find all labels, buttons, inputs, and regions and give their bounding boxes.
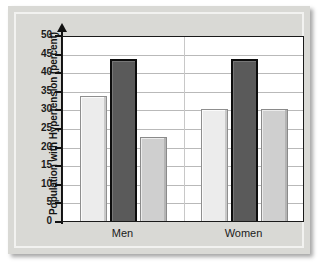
y-tick-label: 25 — [30, 123, 52, 133]
y-tick-label: 30 — [30, 104, 52, 114]
y-tick-label: 0 — [30, 216, 52, 226]
y-tick-label: 40 — [30, 67, 52, 77]
y-axis-arrow-icon — [57, 23, 67, 32]
bar-women-series-3 — [261, 109, 288, 221]
y-tick-mark — [55, 128, 62, 130]
y-tick-mark — [55, 72, 62, 74]
bar-women-series-2 — [231, 59, 258, 221]
bar-women-series-1 — [201, 109, 228, 221]
y-tick-mark — [55, 184, 62, 186]
plot-area — [62, 36, 304, 222]
gridline — [63, 55, 303, 56]
y-tick-label: 15 — [30, 160, 52, 170]
gridline — [63, 92, 303, 93]
y-tick-label: 45 — [30, 49, 52, 59]
bar-men-series-3 — [140, 137, 167, 221]
y-tick-mark — [55, 109, 62, 111]
y-tick-mark — [55, 54, 62, 56]
y-tick-mark — [55, 221, 62, 223]
gridline — [63, 73, 303, 74]
x-tick-label-women: Women — [204, 227, 284, 239]
gridline — [63, 36, 303, 37]
y-tick-label: 50 — [30, 30, 52, 40]
x-tick-label-men: Men — [83, 227, 163, 239]
bar-men-series-2 — [110, 59, 137, 221]
y-tick-label: 20 — [30, 142, 52, 152]
figure-panel: Population with Hypertension (percent) 0… — [8, 6, 310, 254]
y-tick-mark — [55, 165, 62, 167]
y-tick-mark — [55, 202, 62, 204]
y-tick-label: 5 — [30, 197, 52, 207]
plot-area-wrapper — [62, 36, 304, 222]
bar-men-series-1 — [80, 96, 107, 221]
y-tick-mark — [55, 147, 62, 149]
y-tick-mark — [55, 35, 62, 37]
y-tick-mark — [55, 91, 62, 93]
group-divider — [184, 37, 185, 221]
y-tick-label: 35 — [30, 86, 52, 96]
y-tick-label: 10 — [30, 179, 52, 189]
figure-inner-border: Population with Hypertension (percent) 0… — [14, 12, 304, 248]
